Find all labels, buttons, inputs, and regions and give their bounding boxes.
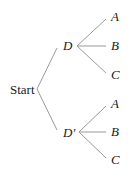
edge-dprime-a bbox=[79, 106, 106, 132]
edge-start-d bbox=[37, 48, 57, 89]
node-start: Start bbox=[10, 83, 35, 96]
node-d-a: A bbox=[111, 10, 119, 23]
edge-d-c bbox=[77, 46, 106, 73]
node-d-b: B bbox=[111, 39, 119, 52]
node-d: D bbox=[63, 39, 72, 52]
node-dprime-c: C bbox=[111, 153, 120, 166]
edge-d-a bbox=[77, 19, 106, 46]
edge-dprime-c bbox=[79, 132, 106, 158]
node-dprime-b: B bbox=[111, 125, 119, 138]
node-dprime: D' bbox=[63, 126, 75, 139]
node-d-c: C bbox=[111, 68, 120, 81]
edge-start-dprime bbox=[37, 89, 57, 130]
node-dprime-a: A bbox=[111, 97, 119, 110]
